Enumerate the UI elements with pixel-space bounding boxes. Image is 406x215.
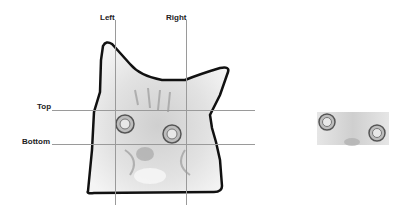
right-label: Right [166, 13, 186, 22]
left-guide-line [115, 20, 116, 205]
cropped-image [317, 112, 389, 146]
top-guide-line [52, 110, 255, 111]
right-guide-line [186, 20, 187, 205]
top-label: Top [37, 102, 51, 111]
bottom-label: Bottom [22, 137, 50, 146]
left-label: Left [100, 13, 115, 22]
bottom-guide-line [52, 144, 255, 145]
cat-image [88, 42, 229, 193]
diagram-canvas [0, 0, 406, 215]
